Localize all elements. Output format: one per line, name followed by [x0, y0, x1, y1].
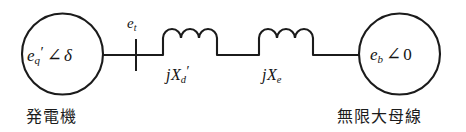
imaginary-unit-symbol: j: [166, 66, 170, 83]
reactance-symbol: X: [267, 66, 277, 83]
reactance-prime: ′: [186, 64, 189, 79]
inductor-xe-icon: [259, 29, 313, 55]
circuit-diagram: eq′∠δ et jXd′ jXe eb∠0 発電機 無限大母線: [0, 0, 466, 132]
external-reactance-label: jXe: [262, 65, 282, 86]
reactance-subscript: e: [277, 74, 282, 85]
infinite-bus-source-label: eb∠0: [370, 45, 412, 65]
transient-reactance-label: jXd′: [166, 65, 190, 86]
generator-voltage-subscript: q: [35, 54, 41, 66]
generator-caption: 発電機: [26, 103, 77, 127]
angle-symbol-icon: ∠: [47, 45, 62, 65]
bus-voltage-subscript: b: [378, 53, 384, 65]
imaginary-unit-symbol: j: [262, 66, 266, 83]
bus-angle-value: 0: [403, 45, 412, 64]
generator-angle-value: δ: [64, 46, 72, 65]
bus-voltage-symbol: e: [370, 45, 378, 64]
angle-symbol-icon: ∠: [386, 44, 401, 64]
reactance-symbol: X: [171, 66, 181, 83]
generator-voltage-symbol: e: [27, 46, 35, 65]
generator-source-label: eq′∠δ: [27, 45, 72, 66]
terminal-voltage-symbol: e: [127, 15, 134, 31]
infinite-bus-caption: 無限大母線: [337, 103, 422, 127]
terminal-voltage-subscript: t: [134, 22, 137, 33]
generator-voltage-prime: ′: [41, 44, 44, 60]
terminal-voltage-label: et: [127, 16, 136, 33]
inductor-xd-icon: [163, 29, 217, 55]
